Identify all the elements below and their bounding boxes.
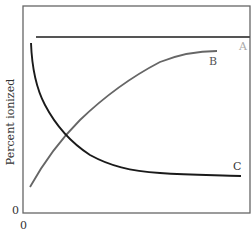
series-b-label: B	[209, 55, 217, 68]
y-axis-title: Percent ionized	[4, 79, 17, 165]
chart: A B C 0 0 Percent ionized	[0, 0, 252, 233]
y-axis-zero-label: 0	[12, 204, 19, 217]
x-axis-zero-label: 0	[20, 219, 27, 232]
series-a-label: A	[238, 40, 248, 53]
series-b-curve	[30, 51, 217, 187]
series-c-label: C	[233, 160, 241, 173]
